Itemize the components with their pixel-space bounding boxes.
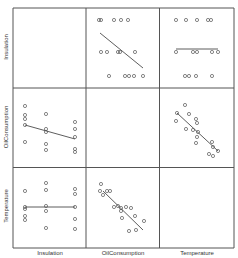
data-point [126, 18, 129, 21]
data-point [141, 74, 144, 77]
scatterplot-matrix [0, 0, 238, 258]
data-point [124, 205, 127, 208]
data-point [216, 50, 219, 53]
data-point [142, 219, 145, 222]
data-point [118, 50, 121, 53]
data-point [23, 117, 26, 120]
data-point [23, 104, 26, 107]
data-point [191, 50, 194, 53]
data-point [132, 74, 135, 77]
data-point [44, 148, 47, 151]
data-point [73, 227, 76, 230]
data-point [174, 119, 177, 122]
data-point [73, 217, 76, 220]
data-point [98, 189, 101, 192]
data-point [44, 112, 47, 115]
data-point [112, 18, 115, 21]
data-point [133, 50, 136, 53]
data-point [127, 74, 130, 77]
data-point [23, 218, 26, 221]
data-point [187, 112, 190, 115]
data-point [191, 128, 194, 131]
data-point [174, 50, 177, 53]
data-point [211, 154, 214, 157]
data-point [194, 74, 197, 77]
data-point [105, 50, 108, 53]
data-point [134, 228, 137, 231]
data-point [99, 50, 102, 53]
data-point [120, 216, 123, 219]
data-point [23, 140, 26, 143]
data-point [73, 127, 76, 130]
data-point [44, 142, 47, 145]
data-point [210, 74, 213, 77]
data-point [210, 140, 213, 143]
data-point [119, 18, 122, 21]
data-point [195, 135, 198, 138]
data-point [73, 192, 76, 195]
data-point [194, 141, 197, 144]
matrix-frame [13, 8, 234, 248]
y-label-oilconsumption: OilConsumption [3, 87, 9, 167]
data-point [44, 188, 47, 191]
data-point [112, 205, 115, 208]
data-point [195, 121, 198, 124]
data-point [73, 187, 76, 190]
data-point [23, 214, 26, 217]
data-point [23, 113, 26, 116]
data-point [133, 214, 136, 217]
data-point [73, 135, 76, 138]
data-point [187, 74, 190, 77]
data-point [23, 207, 26, 210]
data-point [195, 50, 198, 53]
data-point [123, 74, 126, 77]
x-label-oilconsumption: OilConsumption [86, 250, 160, 256]
data-point [194, 117, 197, 120]
data-point [210, 50, 213, 53]
data-point [183, 74, 186, 77]
data-point [183, 103, 186, 106]
x-label-temperature: Temperature [160, 250, 234, 256]
data-point [107, 74, 110, 77]
data-point [129, 206, 132, 209]
x-label-insulation: Insulation [13, 250, 87, 256]
data-point [174, 18, 177, 21]
data-point [44, 209, 47, 212]
data-point [101, 193, 104, 196]
data-point [99, 182, 102, 185]
fit-lines [25, 33, 218, 230]
data-point [23, 189, 26, 192]
data-point [207, 152, 210, 155]
data-point [44, 226, 47, 229]
data-point [73, 120, 76, 123]
data-point [184, 127, 187, 130]
data-point [184, 18, 187, 21]
data-point [127, 229, 130, 232]
data-point [44, 181, 47, 184]
data-point [195, 18, 198, 21]
data-point [99, 18, 102, 21]
y-label-temperature: Temperature [3, 166, 9, 246]
y-label-insulation: Insulation [3, 7, 9, 87]
